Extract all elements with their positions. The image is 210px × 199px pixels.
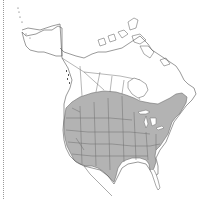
florida-peninsula — [150, 170, 160, 190]
alaska-outline — [22, 26, 62, 56]
range-shaded-area — [64, 91, 187, 182]
north-america-map — [0, 0, 210, 199]
range-map — [0, 0, 210, 199]
arctic-islands — [98, 18, 170, 66]
hudson-bay — [128, 78, 148, 98]
